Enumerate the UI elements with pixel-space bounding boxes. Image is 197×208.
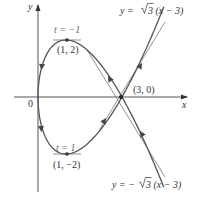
svg-text:3 (x − 3): 3 (x − 3) — [145, 179, 182, 191]
point-cross-label: (3, 0) — [133, 84, 155, 96]
svg-text:y =: y = — [119, 5, 134, 16]
tangent-line-negative — [87, 50, 165, 177]
x-axis-label: x — [181, 99, 187, 110]
point-top-label: (1, 2) — [57, 44, 79, 56]
tangent-line-positive — [100, 22, 165, 129]
t-bottom-label: t = 1 — [56, 142, 76, 153]
point-cross — [119, 95, 123, 99]
tangent-negative-label: y = − 3 (x − 3) — [111, 178, 182, 192]
origin-label: 0 — [28, 98, 33, 109]
svg-text:y = −: y = − — [111, 179, 135, 190]
point-bottom-label: (1, −2) — [53, 159, 80, 171]
svg-text:3 (x − 3): 3 (x − 3) — [147, 5, 184, 17]
tangent-positive-label: y = 3 (x − 3) — [119, 4, 184, 18]
parametric-curve-figure: y x 0 t = −1 (1, 2) t = 1 (1, −2) (3, 0)… — [0, 0, 197, 208]
y-axis-label: y — [27, 1, 33, 12]
t-top-label: t = −1 — [54, 24, 80, 35]
arrow-icon — [39, 64, 46, 71]
direction-arrows — [38, 61, 146, 137]
point-top — [65, 38, 69, 42]
